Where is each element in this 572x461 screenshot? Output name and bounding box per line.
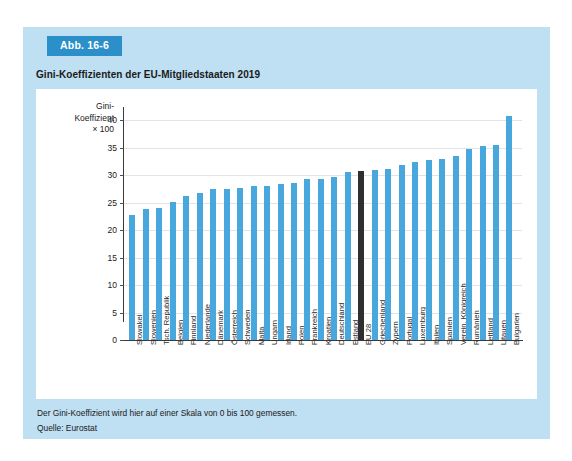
figure-note: Der Gini-Koeffizient wird hier auf einer… xyxy=(37,408,297,418)
bar-frankreich[interactable]: Frankreich xyxy=(304,179,310,340)
bar-ungarn[interactable]: Ungarn xyxy=(264,186,270,340)
y-axis-caption-line2: Koeffizient xyxy=(42,113,114,125)
figure-panel: Abb. 16-6 Gini-Koeffizienten der EU-Mitg… xyxy=(23,27,550,439)
y-axis-tick-label: 25 xyxy=(108,198,117,208)
bar-zypern[interactable]: Zypern xyxy=(385,169,391,340)
bar-litauen[interactable]: Litauen xyxy=(493,145,499,340)
gridline xyxy=(124,120,522,121)
y-axis-tick-label: 20 xyxy=(108,225,117,235)
bar-schweden[interactable]: Schweden xyxy=(237,188,243,340)
bar-spanien[interactable]: Spanien xyxy=(439,159,445,341)
bar-kroatien[interactable]: Kroatien xyxy=(318,179,324,340)
y-axis-tick-mark xyxy=(120,203,124,204)
y-axis-tick-mark xyxy=(120,340,124,341)
y-axis-tick-mark xyxy=(120,230,124,231)
bar-tsch-republik[interactable]: Tsch. Republik xyxy=(156,208,162,340)
bar-rum-nien[interactable]: Rumänien xyxy=(466,149,472,340)
y-axis-tick-mark xyxy=(120,313,124,314)
bar-griechenland[interactable]: Griechenland xyxy=(372,170,378,341)
y-axis-tick-label: 35 xyxy=(108,143,117,153)
y-axis-caption-line3: × 100 xyxy=(42,124,114,136)
bar-italien[interactable]: Italien xyxy=(426,160,432,340)
bar-slowakei[interactable]: Slowakei xyxy=(129,215,135,340)
gridline xyxy=(124,148,522,149)
figure-title: Gini-Koeffizienten der EU-Mitgliedstaate… xyxy=(36,69,260,80)
bar-slowenien[interactable]: Slowenien xyxy=(143,209,149,340)
bar-lettland[interactable]: Lettland xyxy=(480,146,486,340)
bar-irland[interactable]: Irland xyxy=(278,184,284,340)
plot-area: 0510152025303540 SlowakeiSlowenienTsch. … xyxy=(124,109,522,340)
y-axis-tick-label: 40 xyxy=(108,115,117,125)
figure-badge: Abb. 16-6 xyxy=(47,36,122,56)
bar-luxemburg[interactable]: Luxemburg xyxy=(412,162,418,340)
y-axis-tick-mark xyxy=(120,148,124,149)
bar-bulgarien[interactable]: Bulgarien xyxy=(506,116,512,340)
y-axis-tick-label: 15 xyxy=(108,253,117,263)
y-axis-tick-label: 5 xyxy=(112,308,117,318)
bar-polen[interactable]: Polen xyxy=(291,183,297,340)
bar-portugal[interactable]: Portugal xyxy=(399,165,405,340)
bar-belgien[interactable]: Belgien xyxy=(170,202,176,340)
x-axis-tick-label: Bulgarien xyxy=(513,313,522,345)
bar-deutschland[interactable]: Deutschland xyxy=(331,177,337,340)
bar-sterreich[interactable]: Österreich xyxy=(224,189,230,340)
bar-d-nemark[interactable]: Dänemark xyxy=(210,189,216,340)
gridline xyxy=(124,175,522,176)
y-axis-tick-label: 10 xyxy=(108,280,117,290)
y-axis-tick-label: 0 xyxy=(112,335,117,345)
bar-verein-k-nigreich[interactable]: Verein. Königreich xyxy=(453,156,459,340)
bar-estland[interactable]: Estland xyxy=(345,172,351,340)
y-axis-tick-mark xyxy=(120,258,124,259)
bar-eu-28[interactable]: EU 28 xyxy=(358,171,364,340)
y-axis-tick-mark xyxy=(120,120,124,121)
y-axis-tick-mark xyxy=(120,285,124,286)
y-axis-tick-label: 30 xyxy=(108,170,117,180)
bar-malta[interactable]: Malta xyxy=(251,186,257,340)
y-axis-caption: Gini- Koeffizient × 100 xyxy=(42,101,114,136)
y-axis-caption-line1: Gini- xyxy=(42,101,114,113)
bar-niederlande[interactable]: Niederlande xyxy=(197,193,203,340)
bar-finnland[interactable]: Finnland xyxy=(183,196,189,340)
plot-card: Gini- Koeffizient × 100 0510152025303540… xyxy=(36,89,537,399)
y-axis-tick-mark xyxy=(120,175,124,176)
figure-source: Quelle: Eurostat xyxy=(37,423,97,433)
